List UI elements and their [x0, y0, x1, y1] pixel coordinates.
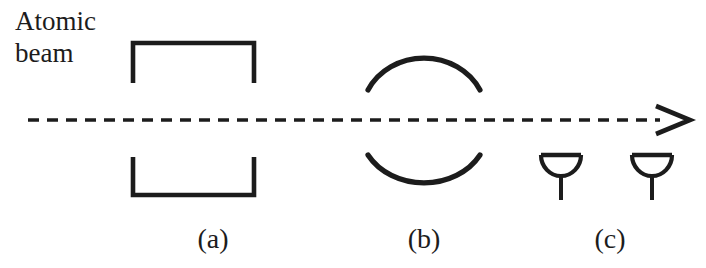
- stage-b-lens-arcs: [368, 58, 480, 183]
- stage-a-upper-bracket: [133, 43, 254, 83]
- stage-b-upper-arc: [368, 58, 480, 90]
- beam-caption-line-1: Atomic: [15, 6, 96, 36]
- atomic-beam-figure: Atomic beam: [0, 0, 706, 268]
- detector-antenna-2: [632, 155, 672, 200]
- antenna-1-bowl: [541, 155, 581, 176]
- stage-b-lower-arc: [368, 155, 480, 183]
- stage-label-a: (a): [197, 223, 228, 254]
- figure-canvas: Atomic beam: [0, 0, 706, 268]
- stage-label-c: (c): [594, 223, 625, 254]
- stage-a-lower-bracket: [133, 157, 254, 195]
- antenna-2-bowl: [632, 155, 672, 176]
- stage-label-b: (b): [408, 223, 441, 254]
- detector-antenna-1: [541, 155, 581, 200]
- stage-c-detector-antennas: [541, 155, 672, 200]
- beam-arrowhead-icon: [656, 106, 690, 134]
- beam-caption-line-2: beam: [15, 38, 73, 68]
